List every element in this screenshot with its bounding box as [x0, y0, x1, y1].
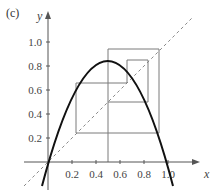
x-axis-label: x	[203, 167, 210, 181]
cobweb-figure: (c)	[0, 0, 220, 192]
x-tick-labels: 0.2 0.4 0.6 0.8 1.0	[65, 168, 175, 180]
svg-text:1.0: 1.0	[28, 36, 42, 48]
svg-text:0.4: 0.4	[89, 168, 103, 180]
x-axis-arrow-icon	[192, 159, 200, 165]
svg-text:0.2: 0.2	[28, 132, 42, 144]
svg-text:0.8: 0.8	[28, 60, 42, 72]
y-tick-labels: 0.2 0.4 0.6 0.8 1.0	[28, 36, 42, 144]
chart-svg: 0.2 0.4 0.6 0.8 1.0 0.2 0.4 0.6 0.8 1.0 …	[0, 0, 220, 192]
svg-text:0.2: 0.2	[65, 168, 79, 180]
svg-text:0.8: 0.8	[137, 168, 151, 180]
svg-text:0.6: 0.6	[28, 84, 42, 96]
svg-text:0.4: 0.4	[28, 108, 42, 120]
svg-text:0.6: 0.6	[113, 168, 127, 180]
y-axis-arrow-icon	[45, 11, 51, 19]
panel-label: (c)	[6, 6, 19, 21]
y-axis-label: y	[36, 9, 43, 23]
